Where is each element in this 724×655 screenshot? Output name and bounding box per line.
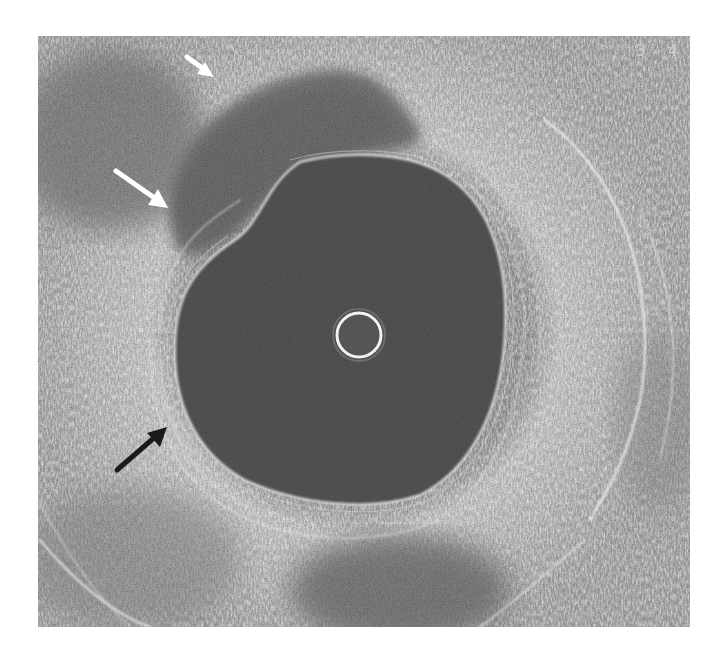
scale-mark-3: 3 (636, 42, 646, 60)
ivus-image: 3 4 (38, 36, 690, 627)
scale-mark-4: 4 (668, 42, 678, 60)
catheter-ring (337, 313, 381, 357)
ultrasound-scan (38, 36, 690, 627)
